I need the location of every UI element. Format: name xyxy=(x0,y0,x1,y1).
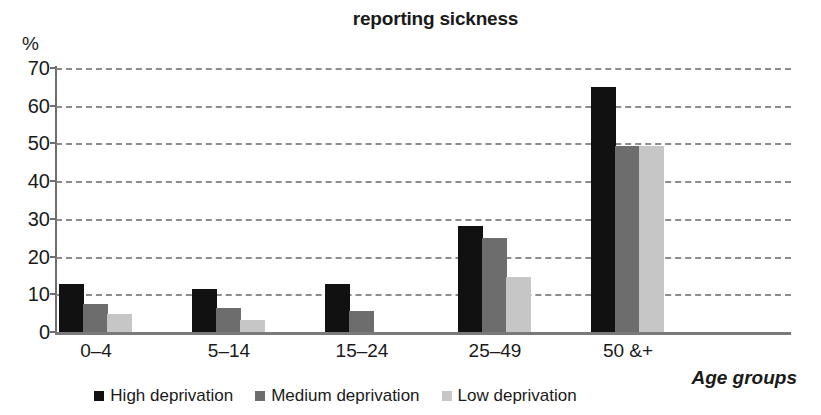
legend-item: High deprivation xyxy=(94,386,233,406)
bar xyxy=(240,320,265,332)
bar xyxy=(83,304,108,332)
bar xyxy=(349,311,374,332)
bar xyxy=(506,277,531,332)
chart-legend: High deprivationMedium deprivationLow de… xyxy=(0,386,821,406)
gridline xyxy=(56,143,791,145)
legend-swatch-icon xyxy=(442,391,452,401)
y-axis-tick-mark xyxy=(50,293,57,295)
bar xyxy=(107,314,132,332)
y-axis-tick-label: 70 xyxy=(6,58,50,78)
y-axis-tick-label: 40 xyxy=(6,171,50,191)
x-axis-label: 15–24 xyxy=(336,340,389,362)
bar xyxy=(591,87,616,332)
x-axis-label: 25–49 xyxy=(469,340,522,362)
gridline xyxy=(56,106,791,108)
y-axis-tick-mark xyxy=(50,218,57,220)
bar xyxy=(59,284,84,332)
x-axis-line xyxy=(55,332,791,335)
y-axis-tick-mark xyxy=(50,105,57,107)
sickness-bar-chart: reporting sickness % 010203040506070 0–4… xyxy=(0,0,821,415)
y-axis-unit-label: % xyxy=(22,33,39,55)
bar xyxy=(192,289,217,332)
gridline xyxy=(56,181,791,183)
y-axis-tick-label: 50 xyxy=(6,133,50,153)
plot-area xyxy=(56,68,791,332)
x-axis-label: 5–14 xyxy=(208,340,250,362)
y-axis-tick-mark xyxy=(50,256,57,258)
y-axis-tick-label: 30 xyxy=(6,209,50,229)
legend-item: Low deprivation xyxy=(442,386,577,406)
gridline xyxy=(56,294,791,296)
bar xyxy=(639,146,664,332)
legend-swatch-icon xyxy=(255,391,265,401)
gridline xyxy=(56,68,791,70)
legend-label: Low deprivation xyxy=(458,386,577,406)
bar xyxy=(615,146,640,332)
chart-title: reporting sickness xyxy=(0,8,821,30)
x-axis-label: 0–4 xyxy=(80,340,112,362)
legend-label: High deprivation xyxy=(110,386,233,406)
y-axis-tick-mark xyxy=(50,142,57,144)
y-axis-tick-label: 10 xyxy=(6,284,50,304)
legend-item: Medium deprivation xyxy=(255,386,419,406)
y-axis-tick-mark xyxy=(50,331,57,333)
gridline xyxy=(56,219,791,221)
bar xyxy=(325,284,350,332)
bar xyxy=(216,308,241,332)
bar xyxy=(458,226,483,332)
y-axis-tick-mark xyxy=(50,67,57,69)
y-axis-tick-label: 0 xyxy=(6,322,50,342)
y-axis-tick-label: 60 xyxy=(6,96,50,116)
bar xyxy=(482,238,507,332)
y-axis-tick-label: 20 xyxy=(6,247,50,267)
legend-label: Medium deprivation xyxy=(271,386,419,406)
legend-swatch-icon xyxy=(94,391,104,401)
x-axis-label: 50 &+ xyxy=(603,340,653,362)
y-axis-tick-mark xyxy=(50,180,57,182)
gridline xyxy=(56,257,791,259)
